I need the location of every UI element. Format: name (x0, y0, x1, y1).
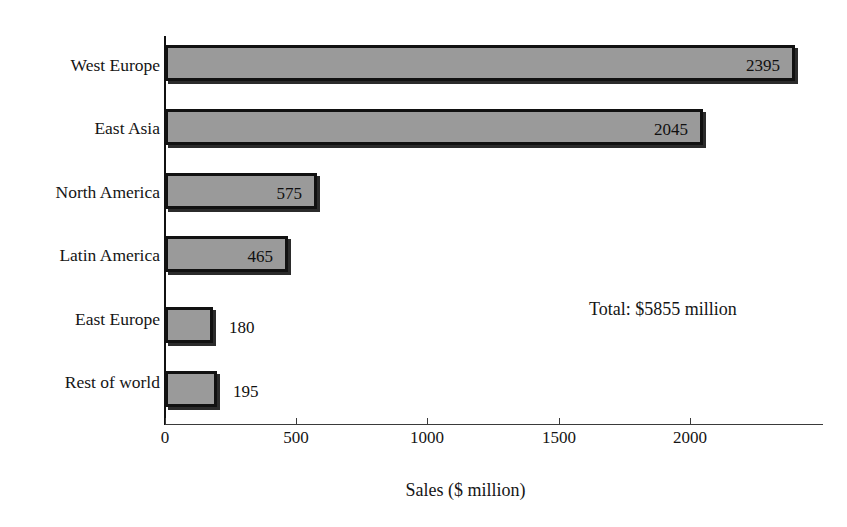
bar-value-east-europe: 180 (229, 319, 255, 336)
bar-value-latin-america: 465 (163, 248, 273, 265)
category-label-east-europe: East Europe (75, 311, 160, 329)
total-annotation: Total: $5855 million (589, 300, 737, 318)
y-axis-line (164, 36, 166, 425)
x-tick-label-2000: 2000 (673, 429, 707, 446)
x-axis-title: Sales ($ million) (0, 481, 847, 499)
bar-value-rest-of-world: 195 (233, 383, 259, 400)
x-axis-line (165, 424, 823, 425)
x-tick-label-500: 500 (283, 429, 309, 446)
bar-east-europe[interactable] (165, 307, 213, 343)
category-label-east-asia: East Asia (94, 120, 160, 138)
x-tick-label-0: 0 (161, 429, 170, 446)
x-tick-0 (165, 418, 166, 425)
category-label-west-europe: West Europe (71, 57, 160, 75)
bar-value-north-america: 575 (192, 185, 302, 202)
category-label-north-america: North America (56, 184, 160, 202)
x-tick-500 (296, 418, 297, 425)
category-label-latin-america: Latin America (59, 247, 160, 265)
x-tick-label-1500: 1500 (542, 429, 576, 446)
x-tick-1000 (427, 418, 428, 425)
x-tick-1500 (559, 418, 560, 425)
x-axis-title-text: Sales ($ million) (406, 480, 526, 500)
bar-chart: West Europe East Asia North America Lati… (0, 0, 847, 527)
bar-value-west-europe: 2395 (655, 57, 780, 74)
category-label-rest-of-world: Rest of world (65, 374, 160, 392)
bar-rest-of-world[interactable] (165, 371, 217, 407)
x-tick-label-1000: 1000 (410, 429, 444, 446)
bar-value-east-asia: 2045 (563, 121, 688, 138)
plot-area: West Europe East Asia North America Lati… (0, 0, 847, 527)
x-tick-2000 (690, 418, 691, 425)
